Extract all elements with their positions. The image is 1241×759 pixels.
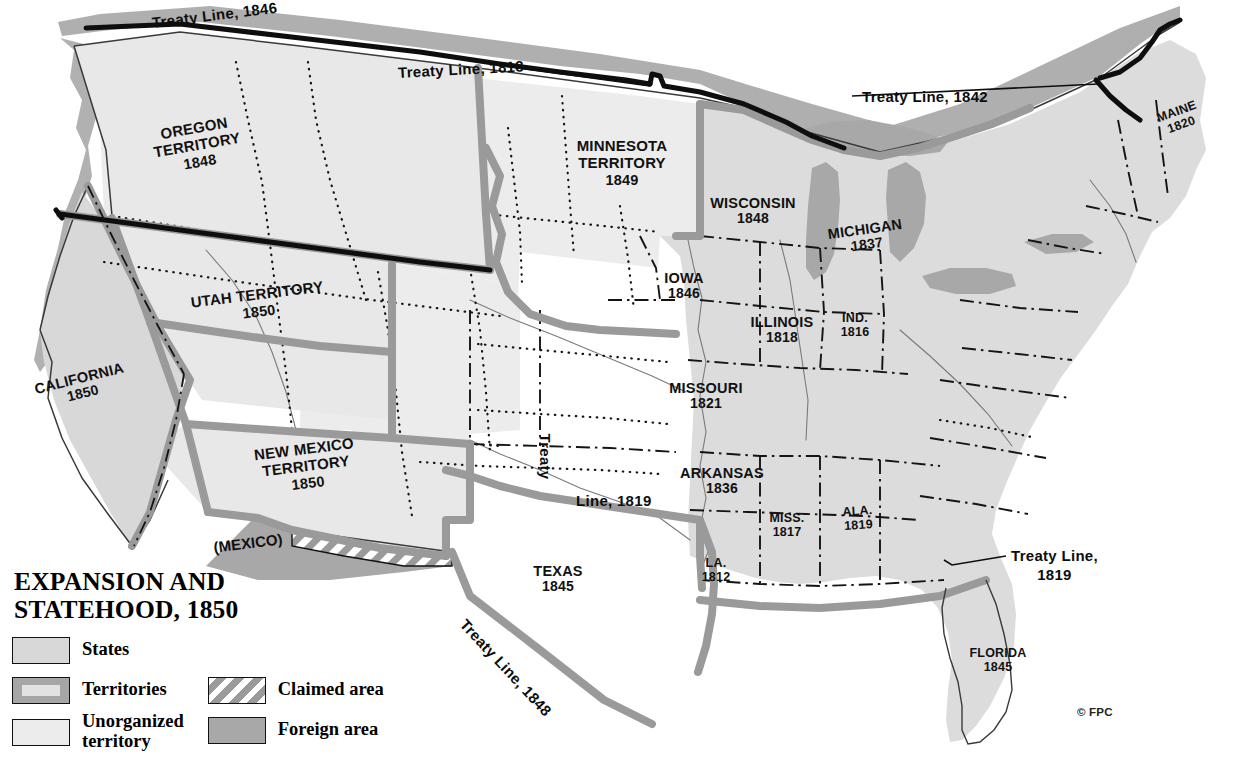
legend-label-foreign: Foreign area	[278, 720, 379, 740]
legend-item-unorganized: Unorganizedterritory	[12, 710, 184, 754]
legend-label-line1: Foreign area	[278, 719, 379, 739]
legend-item-states: States	[12, 630, 184, 670]
legend-label-line2: territory	[82, 732, 184, 752]
legend-label-line1: Claimed area	[278, 679, 384, 699]
map-title: EXPANSION AND STATEHOOD, 1850	[14, 568, 482, 624]
legend-item-claimed: Claimed area	[208, 670, 384, 710]
copyright-credit: © FPC	[1077, 706, 1113, 718]
legend-block: EXPANSION AND STATEHOOD, 1850 StatesTerr…	[12, 568, 482, 753]
legend-column-right: Claimed areaForeign area	[208, 670, 384, 754]
legend-column-left: StatesTerritoriesUnorganizedterritory	[12, 630, 184, 754]
legend-label-territories: Territories	[82, 680, 167, 700]
legend-swatch-claimed	[208, 677, 266, 704]
legend-label-unorganized: Unorganizedterritory	[82, 712, 184, 752]
legend-label-line1: States	[82, 639, 129, 659]
map-title-line2: STATEHOOD, 1850	[14, 596, 482, 624]
legend-label-line1: Territories	[82, 679, 167, 699]
legend-item-foreign: Foreign area	[208, 710, 384, 750]
legend-label-states: States	[82, 640, 129, 660]
legend-swatch-unorganized	[12, 719, 70, 746]
legend-item-territories: Territories	[12, 670, 184, 710]
legend-label-line1: Unorganized	[82, 711, 184, 731]
map-root: MAINE1820WISCONSIN1848MICHIGAN1837IOWA18…	[0, 0, 1241, 759]
map-title-line1: EXPANSION AND	[14, 568, 482, 596]
legend-swatch-states	[12, 637, 70, 664]
legend-label-claimed: Claimed area	[278, 680, 384, 700]
legend-swatch-foreign	[208, 717, 266, 744]
legend-swatch-territories	[12, 677, 70, 704]
legend: StatesTerritoriesUnorganizedterritory Cl…	[12, 630, 482, 754]
